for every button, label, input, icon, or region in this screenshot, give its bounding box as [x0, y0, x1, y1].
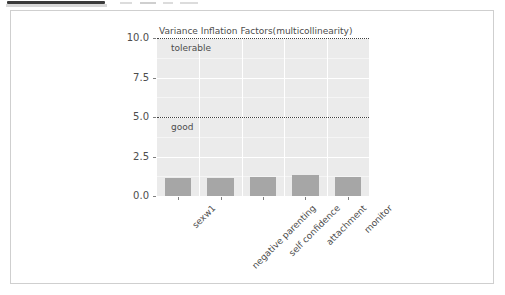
chrome-fragment — [140, 2, 156, 4]
y-axis-tick-mark — [153, 157, 156, 158]
bar — [207, 178, 233, 196]
y-axis-tick-label: 2.5 — [107, 152, 149, 162]
chart-figure: Variance Inflation Factors(multicollinea… — [11, 11, 495, 285]
gridline-minor-horizontal — [157, 97, 369, 98]
plot-card: Variance Inflation Factors(multicollinea… — [10, 10, 494, 284]
y-axis-tick-mark — [153, 78, 156, 79]
gridline-minor-horizontal — [157, 58, 369, 59]
y-axis-tick-label: 5.0 — [107, 112, 149, 122]
bar — [165, 178, 191, 196]
x-axis-tick-mark — [348, 197, 349, 200]
x-axis-tick-mark — [221, 197, 222, 200]
threshold-label: tolerable — [171, 43, 211, 53]
y-axis — [107, 11, 151, 285]
threshold-label: good — [171, 122, 193, 132]
threshold-line — [157, 117, 369, 118]
chrome-dark-bar-shadow — [6, 4, 107, 7]
bar — [250, 177, 276, 196]
bar — [292, 175, 318, 196]
chrome-fragment — [163, 2, 173, 4]
x-axis-tick-mark — [178, 197, 179, 200]
chrome-fragment — [180, 2, 198, 4]
x-axis-tick-mark — [263, 197, 264, 200]
chrome-fragment — [120, 2, 132, 4]
plot-panel: tolerablegood — [157, 38, 369, 196]
y-axis-tick-mark — [153, 196, 156, 197]
bar — [335, 177, 361, 196]
threshold-line — [157, 38, 369, 39]
gridline-major-horizontal — [157, 78, 369, 79]
y-axis-tick-mark — [153, 117, 156, 118]
x-axis-tick-label: sexw1 — [191, 203, 218, 230]
gridline-major-horizontal — [157, 157, 369, 158]
x-axis-tick-mark — [305, 197, 306, 200]
window-chrome-fragments — [0, 0, 505, 8]
gridline-minor-horizontal — [157, 137, 369, 138]
y-axis-tick-label: 0.0 — [107, 191, 149, 201]
y-axis-tick-label: 10.0 — [107, 33, 149, 43]
chart-title: Variance Inflation Factors(multicollinea… — [159, 26, 352, 36]
y-axis-tick-label: 7.5 — [107, 73, 149, 83]
y-axis-tick-mark — [153, 38, 156, 39]
